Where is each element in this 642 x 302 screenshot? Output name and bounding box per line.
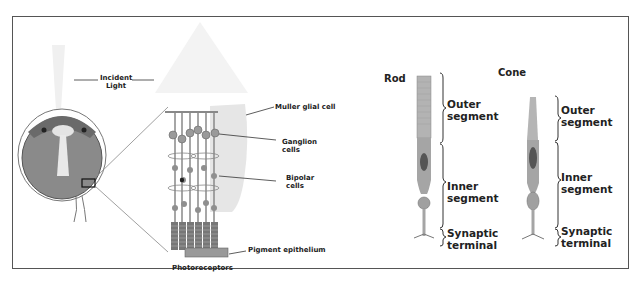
label-bipolar-cells: Bipolar cells [286, 174, 314, 190]
label-incident: Incident [100, 74, 132, 82]
light-cone [155, 22, 248, 93]
label-rod-inner-segment: Inner segment [447, 180, 498, 204]
eye-illustration [18, 109, 106, 222]
diagram-artwork [0, 0, 642, 302]
cone-cell [522, 97, 544, 239]
label-light: Light [100, 82, 132, 90]
label-rod-outer-segment: Outer segment [447, 98, 498, 122]
label-cone-synaptic-terminal: Synaptic terminal [561, 225, 612, 249]
zoom-line-bottom [95, 186, 168, 252]
incident-light-beam [52, 45, 65, 110]
zoom-line-top [95, 107, 168, 178]
rod-cell [414, 76, 434, 238]
label-rod-synaptic-terminal: Synaptic terminal [447, 227, 498, 251]
label-cone-inner-segment: Inner segment [561, 171, 612, 195]
label-photoreceptors: Photoreceptors [172, 264, 233, 272]
label-cone-outer-segment: Outer segment [561, 104, 612, 128]
label-incident-light: Incident Light [100, 74, 132, 90]
label-ganglion-cells: Ganglion cells [282, 138, 317, 154]
label-pigment-epithelium: Pigment epithelium [248, 246, 326, 254]
label-muller-glial-cell: Muller glial cell [275, 103, 335, 111]
label-rod-title: Rod [384, 73, 406, 85]
label-cone-title: Cone [498, 67, 526, 79]
